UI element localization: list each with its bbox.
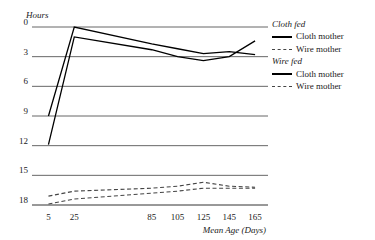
dashed-line-swatch-icon — [272, 83, 292, 90]
legend-item-label: Cloth mother — [296, 30, 344, 42]
chart-container: 1815129630 52585105125145165 Hours Mean … — [0, 0, 375, 240]
data-series-line — [48, 37, 255, 145]
legend-item[interactable]: Wire mother — [272, 80, 372, 92]
x-axis-tick-label: 85 — [147, 212, 157, 222]
y-axis-tick-label: 18 — [19, 195, 29, 205]
legend-item[interactable]: Cloth mother — [272, 30, 372, 42]
data-series-line — [48, 182, 255, 196]
legend-item-label: Cloth mother — [296, 68, 344, 80]
x-axis-tick-label: 5 — [46, 212, 51, 222]
y-axis-tick-label: 12 — [19, 136, 28, 146]
legend-item-label: Wire mother — [296, 43, 341, 55]
legend-group-title: Cloth fed — [272, 18, 372, 30]
x-axis-tick-label: 25 — [70, 212, 80, 222]
y-axis-tick-label: 6 — [24, 76, 29, 86]
x-axis-tick-label: 125 — [197, 212, 211, 222]
dashed-line-swatch-icon — [272, 46, 292, 53]
data-series-line — [48, 188, 255, 204]
x-axis-tick-label: 165 — [248, 212, 262, 222]
solid-line-swatch-icon — [272, 33, 292, 40]
y-axis-title: Hours — [25, 10, 49, 20]
x-axis-tick-label: 145 — [223, 212, 237, 222]
legend-item[interactable]: Wire mother — [272, 43, 372, 55]
y-axis-tick-label: 9 — [24, 106, 29, 116]
data-series-line — [48, 27, 255, 116]
x-axis-tick-labels: 52585105125145165 — [46, 212, 262, 222]
legend-item[interactable]: Cloth mother — [272, 68, 372, 80]
data-series-group — [48, 27, 255, 204]
solid-line-swatch-icon — [272, 70, 292, 77]
chart-legend: Cloth fedCloth motherWire motherWire fed… — [272, 18, 372, 92]
y-axis-tick-labels: 1815129630 — [19, 17, 29, 205]
legend-item-label: Wire mother — [296, 80, 341, 92]
x-axis-tick-label: 105 — [171, 212, 185, 222]
y-axis-tick-label: 3 — [24, 47, 29, 57]
legend-group-title: Wire fed — [272, 55, 372, 67]
y-axis-tick-label: 15 — [19, 165, 29, 175]
gridlines — [32, 27, 268, 205]
x-axis-title: Mean Age (Days) — [202, 225, 266, 235]
